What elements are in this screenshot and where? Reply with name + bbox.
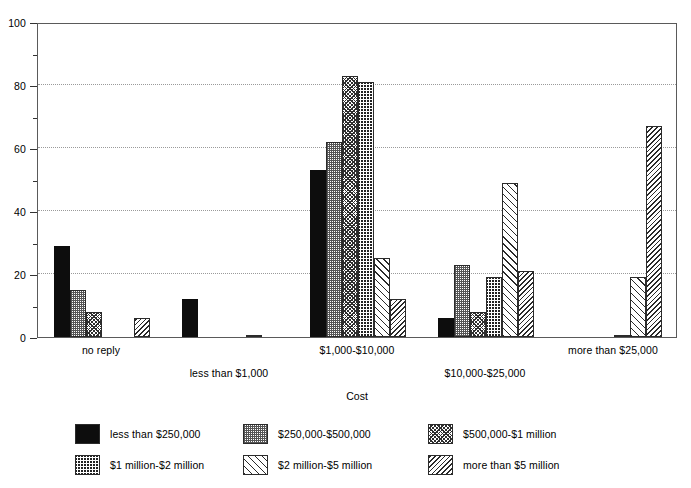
bar [54, 246, 70, 337]
bar [438, 318, 454, 337]
y-tick-80 [30, 86, 37, 87]
bar [502, 183, 518, 337]
y-tick-0 [30, 338, 37, 339]
y-tick-label-80: 80 [0, 81, 26, 91]
legend-swatch-icon [428, 455, 453, 475]
bar [358, 82, 374, 337]
bar [454, 265, 470, 337]
legend-label: $1 million-$2 million [110, 460, 204, 471]
legend-swatch-icon [75, 424, 100, 444]
bar [518, 271, 534, 337]
legend-swatch-icon [75, 455, 100, 475]
bar [310, 170, 326, 337]
y-tick-60 [30, 149, 37, 150]
bar [374, 258, 390, 337]
bar [390, 299, 406, 337]
x-axis-title: Cost [257, 391, 457, 402]
y-tick-label-40: 40 [0, 207, 26, 217]
y-tick-20 [30, 275, 37, 276]
y-tick-40 [30, 212, 37, 213]
bar [614, 335, 630, 337]
bar [630, 277, 646, 337]
y-tick-label-100: 100 [0, 18, 26, 28]
y-tick-label-60: 60 [0, 144, 26, 154]
bar [326, 142, 342, 337]
bar [70, 290, 86, 337]
chart-legend: less than $250,000$250,000-$500,000$500,… [0, 424, 691, 486]
legend-label: $250,000-$500,000 [278, 429, 371, 440]
legend-swatch-icon [243, 455, 268, 475]
legend-swatch-icon [243, 424, 268, 444]
bar [134, 318, 150, 337]
y-tick-label-20: 20 [0, 270, 26, 280]
y-tick-label-0: 0 [0, 333, 26, 343]
legend-label: $2 million-$5 million [278, 460, 372, 471]
x-axis-label: less than $1,000 [139, 368, 319, 379]
bar [342, 76, 358, 337]
x-axis-label: $10,000-$25,000 [395, 368, 575, 379]
x-axis-label: more than $25,000 [523, 345, 691, 356]
y-tick-100 [30, 23, 37, 24]
bar [470, 312, 486, 337]
bar [86, 312, 102, 337]
bar [246, 335, 262, 337]
legend-swatch-icon [428, 424, 453, 444]
bar [182, 299, 198, 337]
x-axis-label: $1,000-$10,000 [267, 345, 447, 356]
bar [486, 277, 502, 337]
bar-chart: 020406080100 no replyless than $1,000$1,… [0, 0, 691, 488]
legend-label: more than $5 million [463, 460, 560, 471]
legend-label: less than $250,000 [110, 429, 201, 440]
x-axis-label: no reply [11, 345, 191, 356]
legend-label: $500,000-$1 million [463, 429, 557, 440]
bar [646, 126, 662, 337]
plot-area [37, 23, 677, 338]
